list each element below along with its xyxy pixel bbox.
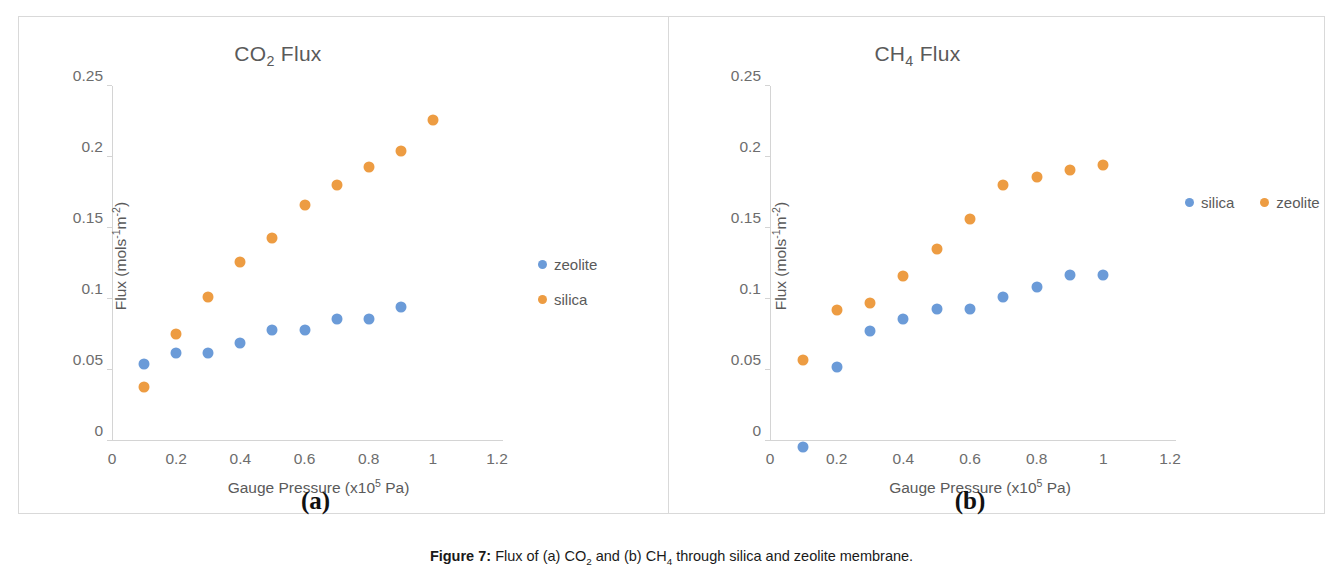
data-point xyxy=(998,180,1009,191)
data-point xyxy=(1098,160,1109,171)
data-point xyxy=(203,347,214,358)
data-point xyxy=(363,161,374,172)
data-point xyxy=(363,313,374,324)
x-tick-label: 0.8 xyxy=(358,450,380,468)
y-tick-label: 0.15 xyxy=(731,209,761,227)
data-point xyxy=(831,305,842,316)
figure-caption: Figure 7: Flux of (a) CO2 and (b) CH4 th… xyxy=(0,548,1343,567)
legend-entry-zeolite: zeolite xyxy=(1260,194,1319,211)
x-axis-line xyxy=(770,440,1176,441)
legend-label: silica xyxy=(1201,194,1234,211)
data-point xyxy=(1098,269,1109,280)
data-point xyxy=(1065,164,1076,175)
panel-label-a: (a) xyxy=(18,487,613,515)
data-point xyxy=(865,326,876,337)
x-tick-label: 0.4 xyxy=(893,450,915,468)
legend-entry-silica: silica xyxy=(1185,194,1234,211)
x-tick-label: 1 xyxy=(1099,450,1108,468)
legend-label: zeolite xyxy=(1276,194,1319,211)
legend-ch4: silicazeolite xyxy=(1185,194,1320,211)
data-point xyxy=(865,298,876,309)
data-point xyxy=(299,200,310,211)
y-tick-label: 0.1 xyxy=(81,280,103,298)
legend-swatch-icon xyxy=(538,295,547,304)
y-tick-label: 0.2 xyxy=(739,138,761,156)
plot-area-co2: Flux (mols-1m-2) Gauge Pressure (x105 Pa… xyxy=(112,86,497,441)
data-point xyxy=(331,313,342,324)
data-point xyxy=(931,244,942,255)
data-point xyxy=(965,214,976,225)
data-point xyxy=(203,292,214,303)
panel-label-b: (b) xyxy=(670,487,1270,515)
chart-panel-co2: CO2 Flux Flux (mols-1m-2) Gauge Pressure… xyxy=(18,16,668,514)
y-axis-title: Flux (mols-1m-2) xyxy=(770,202,790,310)
x-tick-label: 0.6 xyxy=(294,450,316,468)
x-tick-label: 0.2 xyxy=(826,450,848,468)
x-tick-label: 0 xyxy=(766,450,775,468)
y-tick-mark xyxy=(765,298,770,299)
y-tick-mark xyxy=(107,369,112,370)
data-point xyxy=(1031,282,1042,293)
y-tick-label: 0.15 xyxy=(73,209,103,227)
y-tick-label: 0.25 xyxy=(731,67,761,85)
data-point xyxy=(395,302,406,313)
x-tick-label: 0.4 xyxy=(230,450,252,468)
y-tick-mark xyxy=(765,85,770,86)
y-tick-label: 0.1 xyxy=(739,280,761,298)
chart-panel-ch4: CH4 Flux Flux (mols-1m-2) Gauge Pressure… xyxy=(670,16,1325,514)
data-point xyxy=(331,180,342,191)
y-tick-mark xyxy=(765,156,770,157)
y-tick-label: 0 xyxy=(94,422,103,440)
legend-label: silica xyxy=(554,291,587,308)
y-tick-label: 0 xyxy=(752,422,761,440)
chart-title-co2: CO2 Flux xyxy=(18,42,668,69)
x-axis-line xyxy=(112,440,503,441)
caption-label: Figure 7: xyxy=(430,548,491,564)
data-point xyxy=(235,256,246,267)
panel-divider xyxy=(668,17,669,513)
x-tick-label: 1.2 xyxy=(486,450,508,468)
data-point xyxy=(267,325,278,336)
data-point xyxy=(898,313,909,324)
data-point xyxy=(1031,171,1042,182)
y-tick-label: 0.05 xyxy=(73,351,103,369)
data-point xyxy=(139,359,150,370)
y-tick-label: 0.2 xyxy=(81,138,103,156)
legend-swatch-icon xyxy=(1260,198,1269,207)
data-point xyxy=(139,381,150,392)
data-point xyxy=(965,303,976,314)
x-tick-label: 1.2 xyxy=(1159,450,1181,468)
data-point xyxy=(171,329,182,340)
y-tick-mark xyxy=(765,227,770,228)
y-tick-mark xyxy=(107,298,112,299)
chart-title-ch4: CH4 Flux xyxy=(670,42,1325,69)
legend-swatch-icon xyxy=(1185,198,1194,207)
x-tick-label: 0.6 xyxy=(959,450,981,468)
data-point xyxy=(798,354,809,365)
data-point xyxy=(798,441,809,452)
legend-entry-zeolite: zeolite xyxy=(538,256,597,273)
legend-co2: zeolitesilica xyxy=(538,256,597,326)
y-tick-label: 0.25 xyxy=(73,67,103,85)
y-tick-mark xyxy=(107,85,112,86)
data-point xyxy=(171,347,182,358)
y-tick-mark xyxy=(765,369,770,370)
y-tick-mark xyxy=(765,440,770,441)
data-point xyxy=(898,271,909,282)
y-tick-mark xyxy=(107,227,112,228)
x-tick-label: 0.2 xyxy=(165,450,187,468)
data-point xyxy=(235,337,246,348)
legend-swatch-icon xyxy=(538,260,547,269)
data-point xyxy=(427,114,438,125)
y-axis-title: Flux (mols-1m-2) xyxy=(110,202,130,310)
data-point xyxy=(299,325,310,336)
y-tick-mark xyxy=(107,156,112,157)
y-tick-label: 0.05 xyxy=(731,351,761,369)
data-point xyxy=(1065,269,1076,280)
data-point xyxy=(931,303,942,314)
x-tick-label: 1 xyxy=(429,450,438,468)
data-point xyxy=(831,361,842,372)
x-tick-label: 0.8 xyxy=(1026,450,1048,468)
legend-label: zeolite xyxy=(554,256,597,273)
data-point xyxy=(267,232,278,243)
